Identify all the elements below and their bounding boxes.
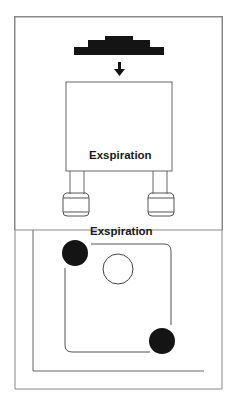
lower-bracket — [33, 230, 204, 371]
upper-label: Exspiration — [89, 149, 152, 161]
open-circle-icon — [103, 254, 133, 284]
down-arrow-icon — [114, 62, 125, 76]
stepped-weight-icon — [74, 36, 164, 55]
left-foot — [63, 193, 89, 216]
diagram-canvas — [0, 0, 236, 401]
filled-circle-top-left-icon — [62, 240, 88, 266]
right-foot — [148, 193, 174, 216]
filled-circle-bottom-right-icon — [149, 328, 175, 354]
lower-label: Exspiration — [90, 225, 153, 237]
